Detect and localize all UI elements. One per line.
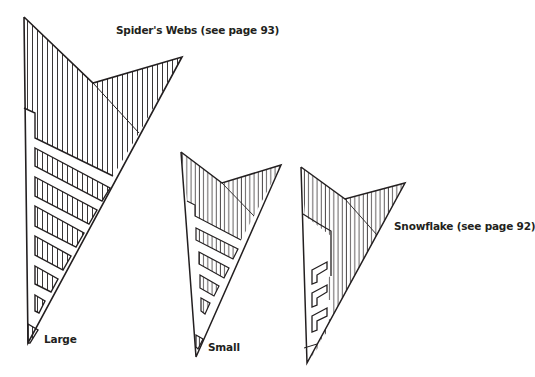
large-spider-web-fold [24,17,182,343]
small-strips [196,228,238,349]
snowflake-notches [312,262,327,332]
spiders-webs-caption: Spider's Webs (see page 93) [116,24,279,36]
snowflake-fold [301,167,405,363]
large-strips [28,148,110,343]
small-label: Small [208,341,240,353]
large-label: Large [44,333,77,345]
large-hatched-top [24,17,182,176]
small-hatched-top [181,152,281,240]
small-spider-web-fold [181,152,281,357]
snowflake-caption: Snowflake (see page 92) [394,220,535,232]
